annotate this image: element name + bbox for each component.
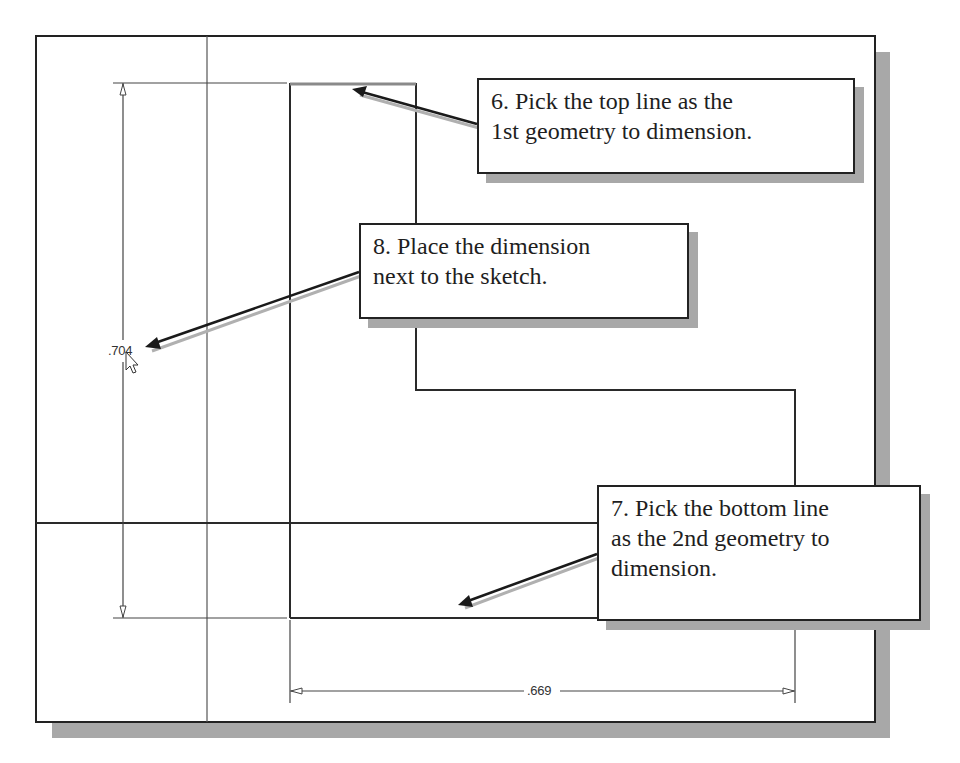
callout-6-line-2: 1st geometry to dimension. (491, 116, 843, 146)
callout-step-8: 8. Place the dimension next to the sketc… (359, 223, 689, 319)
callout-step-7: 7. Pick the bottom line as the 2nd geome… (597, 485, 921, 621)
frame-shadow-right (876, 52, 890, 738)
vertical-dimension-value[interactable]: .704 (108, 343, 132, 358)
horizontal-dimension-value[interactable]: .669 (526, 683, 552, 698)
callout-6-line-1: 6. Pick the top line as the (491, 86, 843, 116)
callout-8-line-2: next to the sketch. (373, 261, 677, 291)
callout-step-6: 6. Pick the top line as the 1st geometry… (477, 78, 855, 174)
frame-shadow-bottom (52, 723, 890, 738)
callout-7-line-3: dimension. (611, 553, 909, 583)
callout-7-line-1: 7. Pick the bottom line (611, 493, 909, 523)
callout-7-line-2: as the 2nd geometry to (611, 523, 909, 553)
callout-8-line-1: 8. Place the dimension (373, 231, 677, 261)
